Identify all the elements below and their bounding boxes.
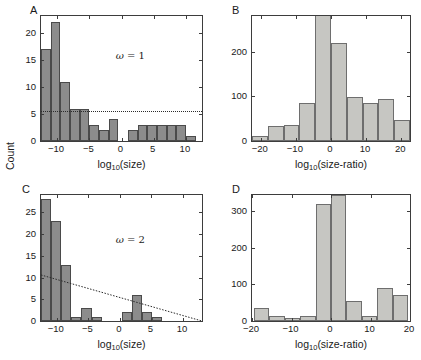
y-axis-tick-mark [407,284,410,285]
y-axis-tick-label: 0 [211,315,247,326]
histogram-bar [331,43,347,141]
panel-d: D log10(size-ratio) 0100200300−20−100102… [211,180,421,360]
xlabel-tail-text: (size) [120,338,146,350]
y-axis-tick-mark [41,278,44,279]
y-axis-tick-mark [252,52,255,53]
x-axis-tick-label: −10 [48,323,64,334]
y-axis-tick-mark [252,141,255,142]
x-axis-tick-mark [331,138,332,141]
histogram-bar [393,295,408,321]
y-axis-tick-label: 100 [211,90,247,101]
y-axis-tick-mark [41,321,44,322]
x-axis-tick-label: −20 [252,143,268,154]
x-axis-tick-mark [292,195,293,198]
xlabel-tail-text: (size-ratio) [317,158,367,170]
x-axis-tick-mark [57,138,58,141]
panel-d-plot-area [251,194,411,322]
y-axis-tick-mark [199,33,202,34]
xlabel-subscript: 10 [112,343,120,352]
histogram-bar [347,97,363,141]
x-axis-tick-mark [252,195,253,198]
x-axis-tick-label: 0 [118,143,123,154]
xlabel-tail-text: (size-ratio) [317,338,367,350]
x-axis-tick-mark [183,318,184,321]
y-axis-tick-mark [41,60,44,61]
x-axis-tick-label: 0 [327,323,332,334]
x-axis-tick-mark [366,16,367,19]
y-axis-tick-label: 15 [0,249,36,260]
xlabel-subscript: 10 [112,163,120,172]
panel-c-letter: C [22,183,30,195]
y-axis-tick-mark [41,256,44,257]
panel-d-letter: D [232,183,240,195]
histogram-bar [41,49,51,141]
y-axis-tick-label: 0 [0,315,36,326]
x-axis-tick-mark [154,138,155,141]
x-axis-tick-mark [252,318,253,321]
panel-c: C log10(size) 0510152025−10−50510ω = 2 [0,180,211,360]
histogram-bar [176,125,186,141]
x-axis-tick-mark [292,318,293,321]
x-axis-tick-mark [296,16,297,19]
x-axis-tick-label: 10 [360,143,371,154]
histogram-bar [378,99,394,141]
panel-a-letter: A [30,4,37,16]
y-axis-tick-mark [199,114,202,115]
x-axis-tick-mark [151,195,152,198]
y-axis-tick-label: 5 [0,108,36,119]
y-axis-tick-mark [199,87,202,88]
panel-b-plot-area [251,15,411,142]
histogram-bar [299,103,315,141]
y-axis-tick-mark [41,212,44,213]
panel-a: A log10(size) 05101520−10−50510ω = 1 [0,0,211,180]
x-axis-tick-mark [331,195,332,198]
y-axis-tick-mark [199,321,202,322]
x-axis-tick-label: −10 [48,143,64,154]
histogram-bar [147,125,157,141]
x-axis-tick-label: −5 [83,143,94,154]
y-axis-tick-mark [252,96,255,97]
x-axis-tick-label: 20 [395,143,406,154]
x-axis-tick-mark [122,138,123,141]
histogram-bar [80,109,90,141]
y-axis-tick-mark [407,96,410,97]
panel-d-xaxis-label: log10(size-ratio) [251,338,411,350]
xlabel-log-text: log [295,338,309,350]
x-axis-tick-mark [186,16,187,19]
x-axis-tick-mark [331,318,332,321]
x-axis-tick-mark [410,318,411,321]
x-axis-tick-mark [88,195,89,198]
annotation-value: = 2 [124,234,145,245]
x-axis-tick-mark [57,318,58,321]
x-axis-tick-mark [120,195,121,198]
x-axis-tick-label: −5 [82,323,93,334]
xlabel-log-text: log [97,158,111,170]
y-axis-tick-mark [199,299,202,300]
x-axis-tick-label: 10 [177,323,188,334]
panel-a-plot-area [40,15,203,142]
y-axis-tick-label: 10 [0,271,36,282]
x-axis-tick-mark [261,16,262,19]
y-axis-tick-mark [199,234,202,235]
y-axis-tick-mark [199,278,202,279]
xlabel-log-text: log [295,158,309,170]
y-axis-tick-mark [41,234,44,235]
y-axis-tick-mark [252,211,255,212]
panel-a-xaxis-label: log10(size) [40,158,203,170]
x-axis-tick-label: 20 [404,323,415,334]
y-axis-tick-label: 300 [211,205,247,216]
x-axis-tick-mark [401,138,402,141]
y-axis-tick-label: 0 [211,135,247,146]
y-axis-tick-label: 25 [0,206,36,217]
annotation-value: = 1 [124,50,145,61]
histogram-bar [284,125,300,141]
x-axis-tick-mark [183,195,184,198]
histogram-bar [157,125,167,141]
y-axis-tick-label: 100 [211,278,247,289]
x-axis-tick-mark [186,138,187,141]
y-axis-tick-mark [199,212,202,213]
histogram-bar [254,308,269,322]
x-axis-tick-label: 10 [364,323,375,334]
histogram-bar [138,125,148,141]
y-axis-tick-label: 20 [0,228,36,239]
